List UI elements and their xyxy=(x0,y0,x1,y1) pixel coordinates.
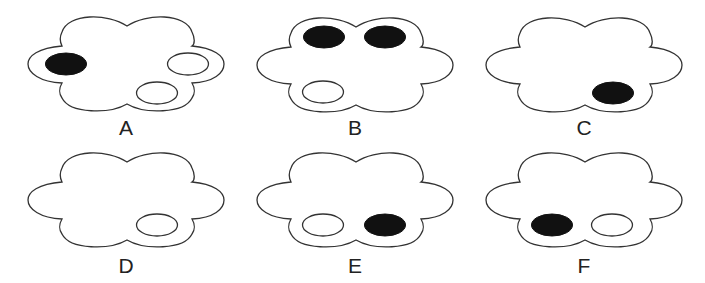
cloud-outline xyxy=(257,153,453,247)
filled-ellipse xyxy=(304,26,345,48)
cloud-outline xyxy=(486,18,682,112)
filled-ellipse xyxy=(532,214,573,236)
figure-f xyxy=(486,153,682,247)
cloud-outline xyxy=(257,18,453,112)
open-ellipse xyxy=(168,53,209,75)
filled-ellipse xyxy=(365,214,406,236)
filled-ellipse xyxy=(46,53,87,75)
figure-label-e: E xyxy=(340,255,370,276)
figure-label-c: C xyxy=(569,117,599,138)
figure-c xyxy=(486,18,682,112)
figure-e xyxy=(257,153,453,247)
figure-label-b: B xyxy=(340,117,370,138)
open-ellipse xyxy=(137,82,178,104)
figure-label-a: A xyxy=(111,117,141,138)
open-ellipse xyxy=(303,81,344,103)
figure-d xyxy=(28,153,224,247)
open-ellipse xyxy=(592,214,633,236)
figure-label-f: F xyxy=(569,255,599,276)
figure-label-d: D xyxy=(111,255,141,276)
filled-ellipse xyxy=(593,82,634,104)
cloud-outline xyxy=(28,153,224,247)
open-ellipse xyxy=(303,214,344,236)
filled-ellipse xyxy=(365,26,406,48)
figure-b xyxy=(257,18,453,112)
cloud-outline xyxy=(486,153,682,247)
cloud-figures-canvas xyxy=(0,0,705,283)
open-ellipse xyxy=(137,214,178,236)
